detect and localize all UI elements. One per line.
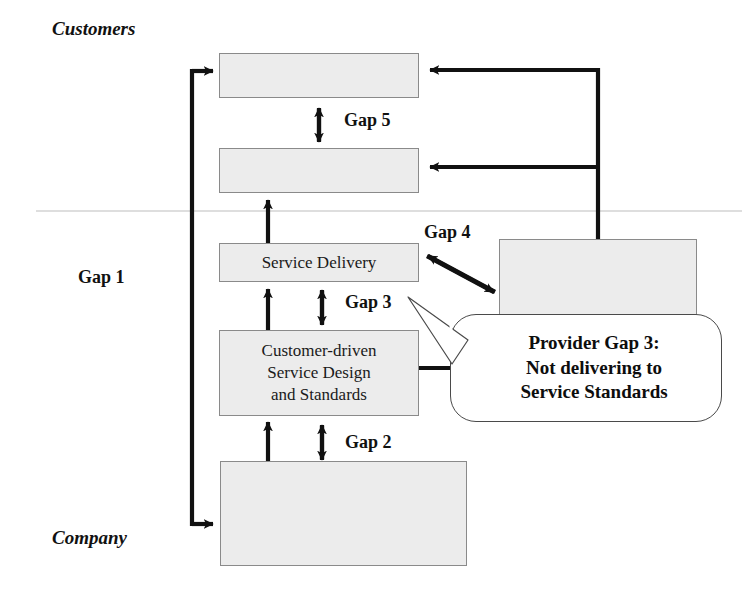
- zone-label-customers: Customers: [52, 18, 135, 40]
- gap-label-gap3: Gap 3: [345, 292, 392, 313]
- gap-label-gap4: Gap 4: [424, 222, 471, 243]
- box-customer-driven-service-design[interactable]: Customer-driven Service Design and Stand…: [219, 330, 419, 416]
- gap-label-gap5: Gap 5: [344, 110, 391, 131]
- external-comm-to-customers-connector: [430, 70, 598, 239]
- box-customer-expectations[interactable]: [219, 53, 419, 98]
- zone-label-company: Company: [52, 527, 127, 549]
- box-service-delivery-label: Service Delivery: [256, 252, 383, 274]
- gaps-model-diagram: Service Delivery Customer-driven Service…: [0, 0, 751, 595]
- callout-provider-gap-3-text: Provider Gap 3: Not delivering to Servic…: [504, 331, 667, 405]
- box-company-perceptions[interactable]: [220, 461, 467, 566]
- gap-label-gap1: Gap 1: [78, 267, 125, 288]
- box-service-delivery[interactable]: Service Delivery: [219, 243, 419, 282]
- gap1-connector: [192, 71, 213, 524]
- box-external-communications[interactable]: [499, 239, 697, 323]
- box-customer-perceptions[interactable]: [219, 148, 419, 193]
- gap4-connector: [427, 256, 495, 292]
- callout-provider-gap-3[interactable]: Provider Gap 3: Not delivering to Servic…: [450, 314, 722, 422]
- gap-label-gap2: Gap 2: [345, 432, 392, 453]
- box-customer-driven-service-design-label: Customer-driven Service Design and Stand…: [256, 340, 383, 405]
